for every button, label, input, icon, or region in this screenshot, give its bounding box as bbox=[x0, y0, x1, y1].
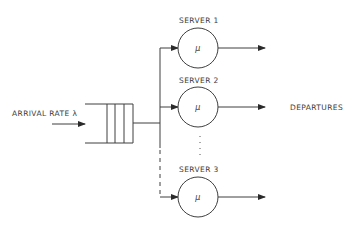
server-1: SERVER 1 μ bbox=[178, 16, 265, 68]
server-2: SERVER 2 μ bbox=[178, 76, 265, 127]
queue-buffer bbox=[85, 104, 133, 143]
server-3-rate: μ bbox=[194, 193, 201, 202]
diagram-canvas: ARRIVAL RATE λ SERVER 1 μ SERVER 2 μ SER… bbox=[0, 0, 354, 234]
server-3: SERVER 3 μ bbox=[178, 165, 265, 217]
arrival-rate-label: ARRIVAL RATE λ bbox=[12, 109, 77, 118]
server-1-label: SERVER 1 bbox=[179, 16, 219, 25]
server-3-label: SERVER 3 bbox=[179, 165, 219, 174]
departures-label: DEPARTURES bbox=[290, 103, 343, 112]
queueing-diagram: ARRIVAL RATE λ SERVER 1 μ SERVER 2 μ SER… bbox=[0, 0, 354, 234]
server-2-label: SERVER 2 bbox=[179, 76, 219, 85]
server-2-rate: μ bbox=[194, 103, 201, 112]
server-1-rate: μ bbox=[194, 44, 201, 53]
